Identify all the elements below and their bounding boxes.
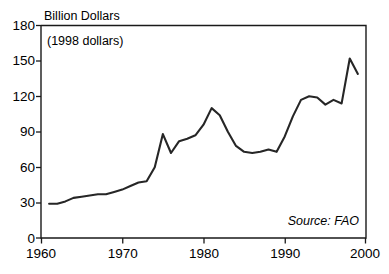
chart-subtitle-note: (1998 dollars) — [47, 34, 123, 48]
y-tick-label-90: 90 — [20, 124, 35, 139]
line-chart: 180 150 120 90 60 30 0 — [0, 0, 389, 274]
x-axis-tick-marks — [42, 238, 366, 244]
x-tick-label-1990: 1990 — [270, 246, 300, 261]
x-tick-label-1960: 1960 — [26, 246, 56, 261]
y-axis-tick-labels: 180 150 120 90 60 30 0 — [12, 18, 35, 246]
y-tick-label-120: 120 — [12, 89, 35, 104]
data-series-line — [49, 59, 358, 204]
x-tick-label-1980: 1980 — [189, 246, 219, 261]
chart-container: 180 150 120 90 60 30 0 — [0, 0, 389, 274]
source-annotation: Source: FAO — [288, 214, 360, 228]
plot-frame — [41, 26, 366, 239]
y-tick-label-0: 0 — [27, 231, 35, 246]
y-tick-label-60: 60 — [20, 160, 35, 175]
y-axis-tick-marks — [36, 26, 41, 239]
chart-axis-title: Billion Dollars — [44, 9, 120, 23]
x-axis-tick-labels: 1960 1970 1980 1990 2000 — [26, 246, 380, 261]
x-tick-label-1970: 1970 — [108, 246, 138, 261]
x-tick-label-2000: 2000 — [350, 246, 380, 261]
y-tick-label-30: 30 — [20, 195, 35, 210]
y-tick-label-180: 180 — [12, 18, 35, 33]
plot-border — [41, 26, 366, 239]
y-tick-label-150: 150 — [12, 53, 35, 68]
